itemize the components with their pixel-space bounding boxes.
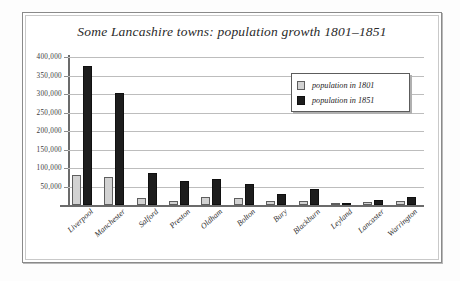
- y-axis-tick-label: 200,000: [37, 127, 62, 135]
- y-axis-tick-label: 300,000: [37, 90, 62, 98]
- legend-label-1851: population in 1851: [312, 96, 374, 105]
- bar: [310, 189, 319, 205]
- bar: [72, 175, 81, 205]
- x-axis-label: Preston: [168, 207, 192, 230]
- bar: [115, 93, 124, 205]
- legend-swatch-icon-1801: [297, 81, 305, 90]
- x-axis-label: Manchester: [93, 207, 127, 239]
- legend-item-1801: population in 1801: [297, 78, 404, 93]
- bar: [363, 202, 372, 205]
- x-axis-label: Liverpool: [66, 207, 95, 235]
- bar: [245, 184, 254, 205]
- bar: [331, 203, 340, 205]
- legend-item-1851: population in 1851: [297, 93, 404, 108]
- bar: [266, 201, 275, 205]
- bar: [201, 197, 210, 205]
- chart-figure: Some Lancashire towns: population growth…: [0, 0, 460, 281]
- bar: [212, 179, 221, 205]
- bar: [234, 198, 243, 205]
- legend-swatch-icon-1851: [297, 96, 305, 105]
- bar: [169, 201, 178, 205]
- bar: [396, 201, 405, 205]
- x-axis-label: Salford: [136, 207, 159, 229]
- y-axis-tick-label: 400,000: [37, 53, 62, 61]
- x-axis-label: Bury: [272, 207, 290, 224]
- y-axis-tick-label: 100,000: [37, 164, 62, 172]
- y-axis-tick-label: 50,000: [40, 183, 62, 191]
- bar: [148, 173, 157, 205]
- x-axis-label: Lancaster: [356, 207, 386, 235]
- bar: [374, 200, 383, 205]
- chart-title: Some Lancashire towns: population growth…: [25, 24, 439, 40]
- bar: [83, 66, 92, 205]
- x-axis-label: Blackburn: [291, 207, 322, 236]
- bar: [137, 198, 146, 205]
- bar: [407, 197, 416, 205]
- bar: [342, 203, 351, 205]
- y-axis-tick-label: 150,000: [37, 146, 62, 154]
- x-axis-label: Leyland: [329, 207, 354, 231]
- y-axis-tick-label: 350,000: [37, 72, 62, 80]
- bar: [180, 181, 189, 205]
- bar: [277, 194, 286, 205]
- y-axis-tick-label: 250,000: [37, 109, 62, 117]
- x-axis-label: Oldham: [199, 207, 224, 231]
- bar: [104, 177, 113, 205]
- legend-label-1801: population in 1801: [312, 81, 374, 90]
- x-axis-label: Warrington: [385, 207, 418, 238]
- x-axis-labels: LiverpoolManchesterSalfordPrestonOldhamB…: [68, 207, 424, 263]
- bar: [299, 201, 308, 205]
- chart-legend: population in 1801 population in 1851: [291, 73, 410, 112]
- x-axis-label: Bolton: [235, 207, 257, 228]
